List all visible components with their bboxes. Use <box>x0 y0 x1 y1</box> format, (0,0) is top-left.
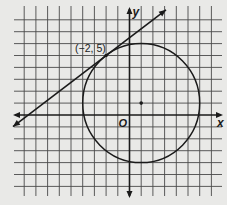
y-axis-label: y <box>132 5 141 19</box>
coordinate-plane: y x O (−2, 5) <box>0 0 227 205</box>
x-axis-label: x <box>216 116 225 130</box>
tangent-point-label: (−2, 5) <box>75 42 106 54</box>
tangent-point <box>104 54 108 58</box>
y-axis-down-arrow-icon <box>127 191 133 198</box>
origin-label: O <box>119 117 128 129</box>
circle-center-point <box>139 101 143 105</box>
x-axis-left-arrow-icon <box>13 112 20 118</box>
